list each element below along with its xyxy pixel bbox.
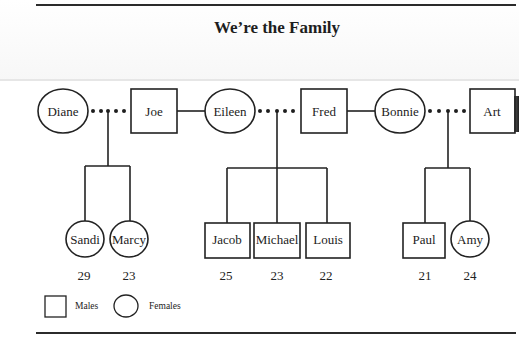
legend-males-label: Males (75, 301, 99, 311)
label-jacob: Jacob (212, 232, 242, 247)
label-louis: Louis (313, 232, 343, 247)
label-sandi: Sandi (70, 232, 100, 247)
dotted-link-eileen-fred (258, 109, 295, 113)
label-diane: Diane (47, 104, 78, 119)
descent-diane-joe (85, 111, 130, 221)
age-paul: 21 (419, 268, 432, 283)
descent-eileen-fred (227, 111, 327, 223)
family-tree-diagram: Diane Joe Eileen Fred Bonnie Art Sandi M… (0, 0, 519, 354)
legend-female-circle-icon (114, 295, 138, 317)
label-paul: Paul (412, 232, 436, 247)
age-marcy: 23 (123, 268, 136, 283)
age-amy: 24 (464, 268, 478, 283)
age-sandi: 29 (78, 268, 91, 283)
descent-bonnie-art (425, 111, 470, 223)
label-fred: Fred (312, 104, 336, 119)
age-michael: 23 (271, 268, 284, 283)
age-louis: 22 (320, 268, 333, 283)
dotted-link-diane-joe (91, 109, 126, 113)
dotted-link-bonnie-art (428, 109, 466, 113)
label-michael: Michael (256, 232, 299, 247)
label-art: Art (483, 104, 501, 119)
label-joe: Joe (145, 104, 163, 119)
label-amy: Amy (457, 232, 484, 247)
age-jacob: 25 (220, 268, 233, 283)
label-marcy: Marcy (112, 232, 146, 247)
legend-male-square-icon (45, 296, 66, 317)
legend-females-label: Females (149, 301, 181, 311)
label-bonnie: Bonnie (381, 104, 419, 119)
label-eileen: Eileen (213, 104, 247, 119)
